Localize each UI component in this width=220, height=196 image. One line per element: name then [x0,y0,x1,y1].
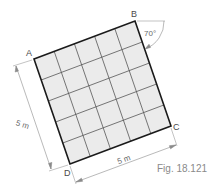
angle-label: 70° [144,29,156,38]
diagram-canvas: A B C D 70° 5 m 5 m Fig. 18.121 [0,0,220,196]
corner-label-c: C [173,122,180,132]
bottom-dimension-label: 5 m [116,153,132,166]
corner-label-d: D [64,168,71,178]
corner-label-b: B [131,9,137,19]
left-dimension-label: 5 m [15,118,31,131]
corner-label-a: A [26,48,32,58]
figure-caption: Fig. 18.121 [157,163,207,174]
tiled-square [34,21,171,164]
